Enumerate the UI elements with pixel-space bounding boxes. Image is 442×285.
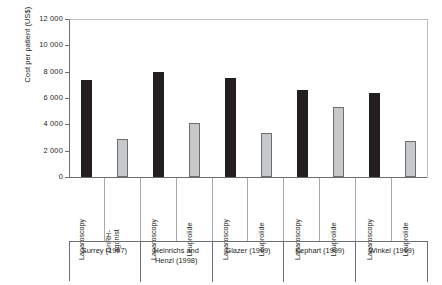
- category-cell: Leuprolide: [392, 178, 428, 241]
- group-label: Surrey (1997): [82, 246, 127, 256]
- category-cell: Laparoscopy: [69, 178, 105, 241]
- bar-laparoscopy: [153, 72, 164, 177]
- category-cell: GnRH-agonist: [105, 178, 141, 241]
- group-label: Kephart (1999): [295, 246, 344, 256]
- y-tick-label: 2 000: [44, 146, 64, 155]
- category-cell: Laparoscopy: [284, 178, 320, 241]
- category-cell: Leuprolide: [320, 178, 356, 241]
- bar-laparoscopy: [297, 90, 308, 177]
- category-cell: Leuprolide: [249, 178, 285, 241]
- y-tick-label: 6 000: [44, 93, 64, 102]
- y-tick-mark: [65, 45, 69, 46]
- y-tick-label: 12 000: [39, 14, 63, 23]
- y-axis-title: Cost per patient (US$): [23, 0, 32, 110]
- bar-medical-therapy: [117, 139, 128, 177]
- group-label: Glazer (1999): [225, 246, 270, 256]
- y-tick-label: 10 000: [39, 40, 63, 49]
- chart-figure: Cost per patient (US$) 12 00010 0008 000…: [0, 0, 442, 285]
- bar-laparoscopy: [369, 93, 380, 177]
- group-cell: Surrey (1997): [69, 242, 141, 282]
- group-cell: Glazer (1999): [213, 242, 285, 282]
- y-tick-label: 8 000: [44, 67, 64, 76]
- bar-medical-therapy: [261, 133, 272, 177]
- group-cell: Kephart (1999): [284, 242, 356, 282]
- category-cell: Laparoscopy: [213, 178, 249, 241]
- y-tick-mark: [65, 124, 69, 125]
- group-cell: Winkel (1999): [356, 242, 428, 282]
- group-cell: Heinrichs and Henzl (1998): [141, 242, 213, 282]
- category-cell: Laparoscopy: [141, 178, 177, 241]
- bar-laparoscopy: [225, 78, 236, 177]
- y-tick-label: 4 000: [44, 119, 64, 128]
- y-tick-label: 0: [59, 172, 63, 181]
- group-label: Heinrichs and Henzl (1998): [154, 246, 199, 265]
- category-cell: Leuprolide: [177, 178, 213, 241]
- bar-laparoscopy: [81, 80, 92, 177]
- bar-medical-therapy: [189, 123, 200, 177]
- y-tick-mark: [65, 72, 69, 73]
- y-tick-mark: [65, 151, 69, 152]
- group-label-row: Surrey (1997)Heinrichs and Henzl (1998)G…: [69, 241, 428, 281]
- y-tick-mark: [65, 19, 69, 20]
- group-label: Winkel (1999): [369, 246, 415, 256]
- category-cell: Laparoscopy: [356, 178, 392, 241]
- plot-right-edge: [427, 19, 428, 178]
- y-tick-mark: [65, 98, 69, 99]
- bar-medical-therapy: [405, 141, 416, 177]
- bar-medical-therapy: [333, 107, 344, 177]
